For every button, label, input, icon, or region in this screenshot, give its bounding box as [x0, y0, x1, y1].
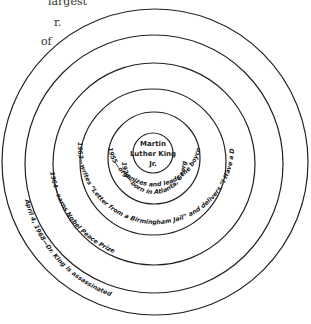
ring-label-1924: 1924—born in Atlanta, Georgia: [0, 0, 188, 195]
concentric-timeline-diagram: Martin Luther King Jr. 1924—born in Atla…: [0, 0, 311, 324]
center-label-line1: Martin: [140, 140, 166, 148]
center-label-line3: Jr.: [148, 160, 157, 168]
center-label-line2: Luther King: [130, 150, 176, 158]
ring-label-1955: 1955—organizes and leads the boycott of …: [0, 0, 202, 187]
ring-label-1964: 1964—earns Nobel Peace Prize: [49, 171, 116, 254]
